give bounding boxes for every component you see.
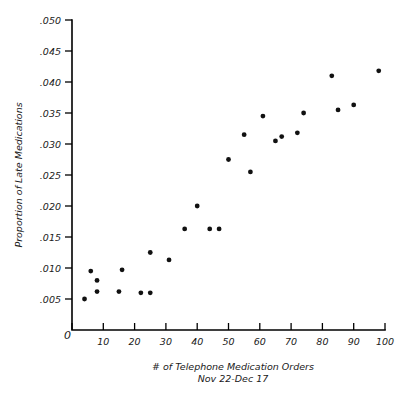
data-point	[376, 68, 381, 73]
y-tick-label: .010	[40, 263, 61, 274]
plot-canvas: 102030405060708090100 .005.010.015.020.0…	[0, 0, 406, 396]
x-tick-label: 20	[129, 336, 141, 347]
y-tick-label: .040	[40, 77, 61, 88]
axes-group	[72, 20, 385, 330]
x-tick-label: 80	[316, 336, 328, 347]
y-tick-label: .045	[40, 46, 61, 57]
y-tick-label: .030	[40, 139, 61, 150]
data-point	[167, 258, 172, 263]
x-tick-label: 60	[254, 336, 266, 347]
axis-lines	[72, 20, 385, 330]
data-point	[336, 108, 341, 113]
data-point	[82, 297, 87, 302]
x-axis-tick-labels: 102030405060708090100	[97, 336, 394, 347]
data-point	[88, 269, 93, 274]
x-tick-label: 50	[222, 336, 234, 347]
x-tick-label: 10	[97, 336, 109, 347]
data-point	[138, 290, 143, 295]
data-point	[148, 290, 153, 295]
origin-label: 0	[64, 329, 71, 342]
y-axis-tick-labels: .005.010.015.020.025.030.035.040.045.050	[40, 15, 61, 305]
data-point	[148, 250, 153, 255]
data-point	[261, 114, 266, 119]
data-point	[95, 278, 100, 283]
y-tick-label: .020	[40, 201, 61, 212]
y-axis-ticks	[65, 20, 72, 299]
x-axis-title: # of Telephone Medication Orders	[152, 361, 314, 372]
data-point	[329, 73, 334, 78]
data-point	[279, 134, 284, 139]
data-point	[248, 170, 253, 175]
y-tick-label: .035	[40, 108, 61, 119]
data-point	[195, 204, 200, 209]
y-axis-title: Proportion of Late Medications	[13, 102, 24, 247]
data-point	[207, 227, 212, 232]
y-tick-label: .015	[40, 232, 61, 243]
data-point	[117, 289, 122, 294]
x-tick-label: 30	[160, 336, 172, 347]
data-point	[217, 227, 222, 232]
y-tick-label: .050	[40, 15, 61, 26]
y-tick-label: .025	[40, 170, 61, 181]
scatter-chart: 102030405060708090100 .005.010.015.020.0…	[0, 0, 406, 396]
data-point	[295, 130, 300, 135]
data-point	[273, 139, 278, 144]
data-point	[242, 132, 247, 137]
data-point	[95, 289, 100, 294]
data-point	[182, 227, 187, 232]
x-tick-label: 90	[348, 336, 360, 347]
data-points	[82, 68, 381, 301]
x-axis-ticks	[72, 323, 385, 330]
data-point	[120, 267, 125, 272]
x-tick-label: 40	[191, 336, 203, 347]
y-tick-label: .005	[40, 294, 61, 305]
x-tick-label: 70	[285, 336, 297, 347]
data-point	[351, 103, 356, 108]
x-tick-label: 100	[376, 336, 394, 347]
data-point	[301, 111, 306, 116]
data-point	[226, 157, 231, 162]
x-axis-subtitle: Nov 22-Dec 17	[198, 373, 269, 384]
